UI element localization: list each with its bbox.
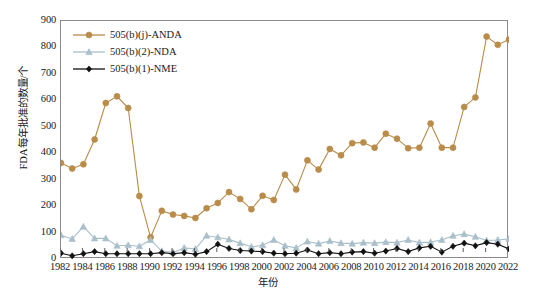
x-tick-label: 2020: [475, 261, 495, 273]
y-tick-label: 100: [22, 227, 56, 237]
y-axis-title: FDA每年批准的数量/个: [15, 18, 30, 218]
x-tick-label: 1998: [229, 261, 249, 273]
x-tick-label: 1986: [95, 261, 115, 273]
x-axis-title: 年份: [0, 274, 535, 289]
x-tick-label: 2014: [408, 261, 428, 273]
x-tick-label: 2012: [386, 261, 406, 273]
x-tick-label: 1982: [50, 261, 70, 273]
legend-swatch-anda: [72, 29, 106, 41]
x-tick-label: 2004: [296, 261, 316, 273]
x-tick-label: 2002: [274, 261, 294, 273]
legend-item-anda: 505(b)(j)-ANDA: [72, 26, 222, 43]
x-tick-label: 1996: [207, 261, 227, 273]
x-tick-label: 2006: [319, 261, 339, 273]
x-tick-label: 1990: [139, 261, 159, 273]
x-tick-label: 1994: [184, 261, 204, 273]
legend-swatch-nme: [72, 63, 106, 75]
legend-item-nda: 505(b)(2)-NDA: [72, 43, 222, 60]
legend-label-nme: 505(b)(1)-NME: [110, 63, 177, 75]
x-tick-label: 2018: [453, 261, 473, 273]
x-axis-ticks: [60, 248, 508, 258]
x-tick-label: 1988: [117, 261, 137, 273]
legend-swatch-nda: [72, 46, 106, 58]
x-tick-label: 2016: [431, 261, 451, 273]
x-axis-tick-labels: 1982198419861988199019921994199619982000…: [0, 261, 535, 275]
legend-item-nme: 505(b)(1)-NME: [72, 60, 222, 77]
x-tick-label: 1992: [162, 261, 182, 273]
chart-legend: 505(b)(j)-ANDA 505(b)(2)-NDA 505(b)(1)-N…: [72, 26, 222, 77]
legend-label-nda: 505(b)(2)-NDA: [110, 46, 176, 58]
chart-container: 0100200300400500600700800900 FDA每年批准的数量/…: [0, 0, 535, 295]
legend-label-anda: 505(b)(j)-ANDA: [110, 29, 182, 41]
x-tick-label: 1984: [72, 261, 92, 273]
x-tick-label: 2010: [363, 261, 383, 273]
x-tick-label: 2022: [498, 261, 518, 273]
x-tick-label: 2008: [341, 261, 361, 273]
x-tick-label: 2000: [251, 261, 271, 273]
